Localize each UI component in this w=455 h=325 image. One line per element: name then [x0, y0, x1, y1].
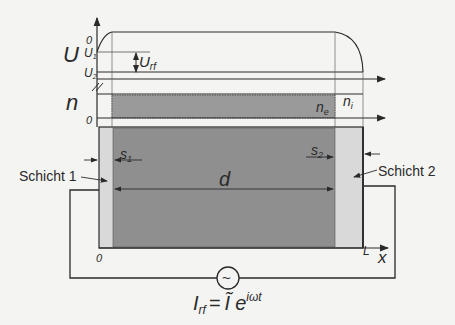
n-zero-tick: 0 [86, 114, 93, 126]
rf-source-symbol: ~ [222, 269, 231, 286]
urf-label: Urf [139, 53, 157, 72]
layer2-label: Schicht 2 [378, 163, 436, 179]
axis-break-mark [92, 83, 99, 91]
u-zero-tick: 0 [86, 34, 93, 46]
u2-tick: U2 [84, 66, 97, 80]
x-end-label: L [363, 244, 370, 258]
n-axis-label: n [66, 90, 78, 115]
ccp-discharge-diagram: U 0 U1 U2 Urf n 0 ne ni s1 s2 d Schic [0, 0, 455, 325]
x-origin-label: 0 [96, 252, 103, 264]
d-label: d [219, 168, 231, 190]
u1-tick: U1 [84, 46, 97, 60]
density-plot: n 0 ne ni [66, 86, 385, 127]
u-axis-label: U [63, 42, 79, 67]
ni-label: ni [343, 93, 354, 111]
electron-density-band [112, 95, 335, 118]
x-axis-label: x [377, 248, 387, 267]
discharge-geometry: s1 s2 d Schicht 1 Schicht 2 0 L x [19, 127, 436, 267]
rf-current-formula: Irf=Ĩeiωt [193, 290, 262, 317]
layer1-label: Schicht 1 [19, 168, 77, 184]
